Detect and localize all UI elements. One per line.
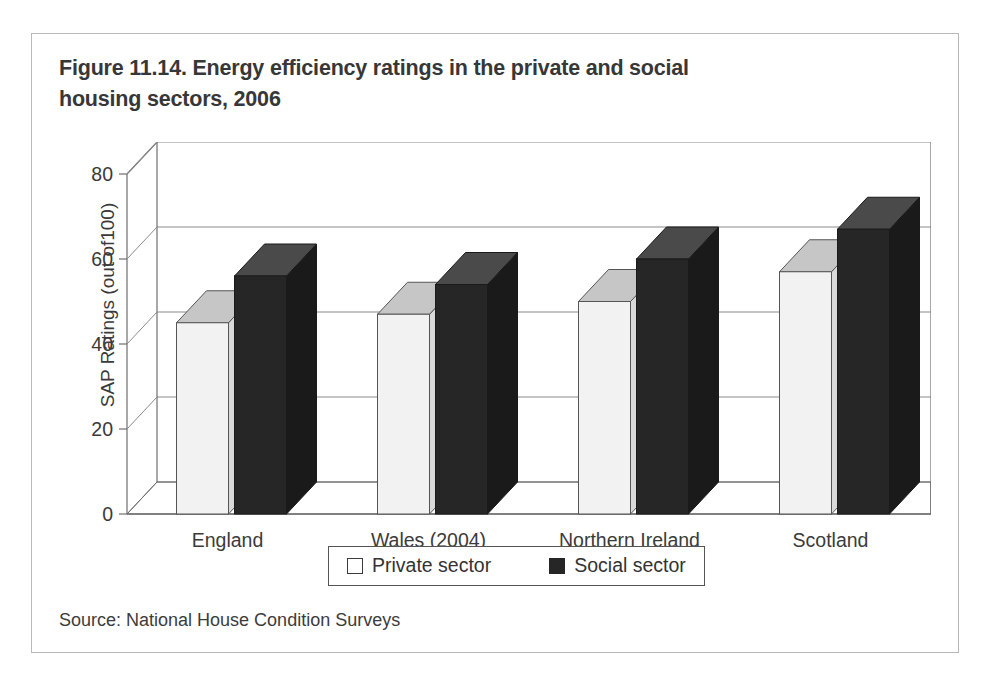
y-tick-label: 80 xyxy=(91,163,113,185)
x-axis-label: Scotland xyxy=(730,529,931,552)
y-tick-label: 0 xyxy=(102,503,113,525)
legend-item-private: Private sector xyxy=(347,554,491,577)
y-tick-label: 60 xyxy=(91,248,113,270)
source-note: Source: National House Condition Surveys xyxy=(59,610,400,631)
open-square-icon xyxy=(347,558,363,574)
filled-square-icon xyxy=(549,558,565,574)
bar-scotland-social-sector xyxy=(838,197,920,514)
chart-legend: Private sector Social sector xyxy=(328,546,705,586)
y-tick-label: 20 xyxy=(91,418,113,440)
y-tick-label: 40 xyxy=(91,333,113,355)
chart-plot-area: SAP Ratings (out of100) 02040608 xyxy=(59,142,931,542)
figure-panel: Figure 11.14. Energy efficiency ratings … xyxy=(31,33,959,653)
legend-label-social: Social sector xyxy=(574,554,686,577)
bar-wales-2004--social-sector xyxy=(436,253,518,515)
bar-england-social-sector xyxy=(235,244,317,514)
bar-northern-ireland-social-sector xyxy=(637,227,719,514)
y-axis-ticks xyxy=(119,142,157,514)
legend-label-private: Private sector xyxy=(372,554,491,577)
bar-chart-svg: 020406080 xyxy=(59,142,931,542)
x-axis-label: England xyxy=(127,529,328,552)
figure-title: Figure 11.14. Energy efficiency ratings … xyxy=(59,53,759,115)
y-axis-tick-labels: 020406080 xyxy=(91,163,113,525)
legend-item-social: Social sector xyxy=(549,554,686,577)
